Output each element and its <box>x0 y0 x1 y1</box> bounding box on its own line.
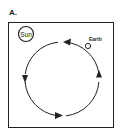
orbit-arc-bottom-right <box>66 82 99 116</box>
orbit-arc-top-right <box>66 42 99 73</box>
orbit <box>25 42 99 116</box>
sun-label: Sun <box>20 31 32 38</box>
orbit-arc-top-left <box>25 42 58 74</box>
arrow-up-icon <box>96 70 102 78</box>
arrow-left-icon <box>63 39 71 46</box>
orbit-diagram: Sun Earth <box>0 0 120 138</box>
arrow-right-icon <box>55 112 63 119</box>
arrows <box>22 39 102 120</box>
earth-label: Earth <box>89 36 102 42</box>
arrow-down-icon <box>22 75 28 83</box>
earth: Earth <box>85 36 101 49</box>
sun: Sun <box>19 27 34 42</box>
orbit-arc-bottom-left <box>25 82 56 116</box>
earth-icon <box>85 43 90 48</box>
